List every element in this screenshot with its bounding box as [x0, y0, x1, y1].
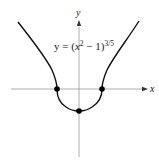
curve-middle-arc: [57, 89, 102, 111]
y-axis-label: y: [75, 7, 81, 18]
equation-middle: − 1): [84, 40, 105, 53]
x-axis-arrow-icon: [142, 87, 148, 91]
function-graph: x y y = (x2 − 1)3/5: [0, 0, 159, 168]
point-x-intercept-left: [54, 86, 60, 92]
curve-right-branch: [102, 21, 139, 89]
equation-label: y = (x2 − 1)3/5: [54, 39, 114, 53]
point-x-intercept-right: [99, 86, 105, 92]
equation-exponent-3-5: 3/5: [104, 39, 114, 48]
curve-left-branch: [18, 22, 57, 89]
x-axis-label: x: [149, 83, 155, 94]
equation-prefix: y = (: [54, 40, 75, 53]
point-y-intercept: [76, 108, 82, 114]
y-axis-arrow-icon: [77, 20, 81, 26]
